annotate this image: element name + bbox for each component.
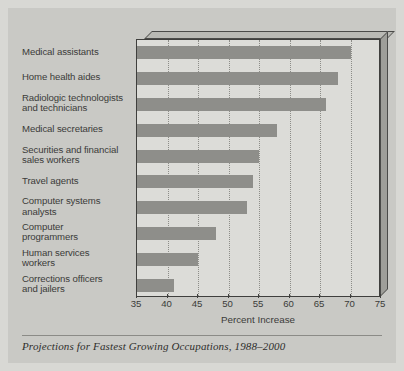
x-tick-label-60: 60 <box>283 298 294 309</box>
plot-area <box>136 39 380 297</box>
bar <box>137 124 277 137</box>
x-axis-title: Percent Increase <box>136 314 380 325</box>
category-label: Computerprogrammers <box>22 222 140 243</box>
bar <box>137 72 338 85</box>
plot-box-top-face <box>144 31 395 39</box>
x-tick-label-50: 50 <box>222 298 233 309</box>
category-label-line: Medical assistants <box>22 47 140 58</box>
x-tick-label-40: 40 <box>161 298 172 309</box>
x-tick-label-70: 70 <box>344 298 355 309</box>
category-label-line: Home health aides <box>22 72 140 83</box>
bar <box>137 227 216 240</box>
x-tick-label-45: 45 <box>192 298 203 309</box>
plot-box-3d <box>136 31 388 305</box>
category-label-line: sales workers <box>22 155 140 166</box>
category-label: Medical secretaries <box>22 124 140 135</box>
category-label-list: Medical assistantsHome health aidesRadio… <box>22 39 138 297</box>
category-label: Corrections officersand jailers <box>22 274 140 295</box>
category-label-line: and technicians <box>22 103 140 114</box>
category-label: Human servicesworkers <box>22 248 140 269</box>
bar <box>137 150 259 163</box>
category-label: Securities and financialsales workers <box>22 145 140 166</box>
bar <box>137 253 198 266</box>
category-label-line: programmers <box>22 232 140 243</box>
category-label-line: and jailers <box>22 284 140 295</box>
category-label: Computer systemsanalysts <box>22 196 140 217</box>
x-tick-label-75: 75 <box>375 298 386 309</box>
category-label-line: workers <box>22 258 140 269</box>
x-axis-ticks: 354045505560657075 <box>136 298 388 312</box>
category-label-line: Medical secretaries <box>22 124 140 135</box>
figure-panel: Medical assistantsHome health aidesRadio… <box>8 8 396 363</box>
bar <box>137 279 174 292</box>
category-label-line: analysts <box>22 207 140 218</box>
category-label: Medical assistants <box>22 47 140 58</box>
category-label: Travel agents <box>22 176 140 187</box>
category-label: Home health aides <box>22 72 140 83</box>
bar <box>137 98 326 111</box>
gridline-70 <box>351 40 352 296</box>
bar <box>137 46 351 59</box>
x-tick-label-65: 65 <box>314 298 325 309</box>
plot-box-right-face <box>380 31 388 297</box>
x-tick-label-35: 35 <box>131 298 142 309</box>
category-label: Radiologic technologistsand technicians <box>22 93 140 114</box>
figure-caption: Projections for Fastest Growing Occupati… <box>22 340 285 352</box>
x-tick-label-55: 55 <box>253 298 264 309</box>
bar <box>137 175 253 188</box>
category-label-line: Travel agents <box>22 176 140 187</box>
bar <box>137 201 247 214</box>
caption-divider <box>22 335 382 336</box>
